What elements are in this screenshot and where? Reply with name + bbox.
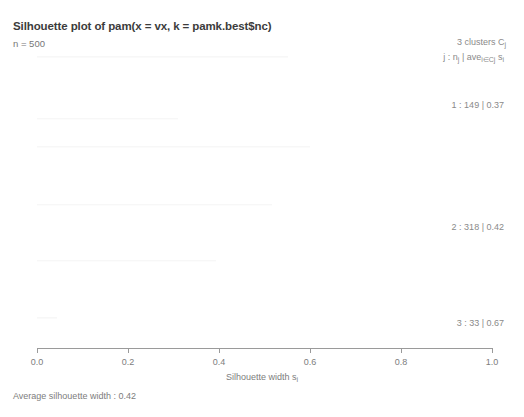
- cluster-annotation-1: 1 : 149 | 0.37: [452, 100, 504, 110]
- x-axis-tick-label: 1.0: [486, 357, 499, 367]
- x-axis-tick-label: 0.4: [213, 357, 226, 367]
- legend-header-subscript: j: [504, 41, 506, 48]
- silhouette-plot-canvas: Silhouette plot of pam(x = vx, k = pamk.…: [0, 0, 524, 417]
- clipped-caption: [38, 410, 518, 417]
- x-axis-tick: [492, 348, 493, 353]
- x-axis-tick: [219, 348, 220, 353]
- silhouette-bars-group: [0, 50, 524, 340]
- x-axis-title-subscript: i: [296, 376, 298, 383]
- x-axis-tick-label: 0.0: [31, 357, 44, 367]
- x-axis-title: Silhouette width si: [0, 372, 524, 383]
- silhouette-bar: [37, 317, 57, 319]
- legend-header: 3 clusters Cj: [443, 36, 506, 51]
- average-silhouette-width-label: Average silhouette width : 0.42: [13, 391, 136, 401]
- x-axis-tick: [401, 348, 402, 353]
- silhouette-bar: [37, 56, 288, 58]
- silhouette-bar: [37, 260, 216, 262]
- x-axis-tick: [37, 348, 38, 353]
- x-axis-tick-label: 0.2: [122, 357, 135, 367]
- x-axis-tick: [310, 348, 311, 353]
- x-axis-line: [37, 348, 492, 349]
- page-title: Silhouette plot of pam(x = vx, k = pamk.…: [13, 20, 272, 32]
- cluster-annotation-3: 3 : 33 | 0.67: [457, 318, 504, 328]
- cluster-annotation-2: 2 : 318 | 0.42: [452, 222, 504, 232]
- x-axis-tick-label: 0.8: [395, 357, 408, 367]
- x-axis-tick: [128, 348, 129, 353]
- silhouette-bar: [37, 204, 272, 206]
- x-axis-tick-label: 0.6: [304, 357, 317, 367]
- sample-size-label: n = 500: [13, 38, 45, 49]
- silhouette-bar: [37, 118, 178, 120]
- legend-header-text: 3 clusters C: [457, 37, 505, 47]
- silhouette-bar: [37, 146, 310, 148]
- x-axis-title-text: Silhouette width s: [226, 372, 297, 382]
